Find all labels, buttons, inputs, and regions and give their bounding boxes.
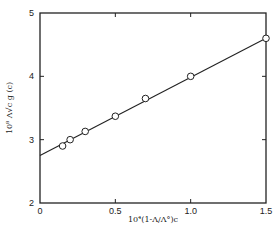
x-axis-label: 10⁴(1-Λ/Λ°)c: [128, 215, 179, 224]
y-tick-label: 5: [29, 8, 34, 18]
y-tick-label: 4: [29, 71, 34, 81]
x-axis-ticks: 00.51.01.5: [37, 13, 272, 216]
fit-line: [40, 38, 266, 155]
y-axis-ticks: 2345: [29, 8, 266, 208]
fit-line-path: [40, 38, 266, 155]
data-point-marker: [112, 113, 119, 120]
axes-box: [40, 13, 266, 203]
data-points: [59, 35, 269, 149]
x-tick-label: 0: [37, 206, 42, 216]
x-tick-label: 1.5: [260, 206, 273, 216]
data-point-marker: [263, 35, 270, 42]
chart: 00.51.01.5 2345 10⁴(1-Λ/Λ°)c 10⁸ Λ√c g (…: [0, 0, 280, 234]
data-point-marker: [59, 143, 66, 150]
data-point-marker: [82, 128, 89, 135]
data-point-marker: [142, 95, 149, 102]
x-tick-label: 0.5: [109, 206, 122, 216]
y-tick-label: 3: [29, 135, 34, 145]
data-point-marker: [67, 136, 74, 143]
x-tick-label: 1.0: [184, 206, 197, 216]
y-tick-label: 2: [29, 198, 34, 208]
plot-frame: [40, 13, 266, 203]
data-point-marker: [187, 73, 194, 80]
y-axis-label: 10⁸ Λ√c g (c): [5, 82, 14, 134]
